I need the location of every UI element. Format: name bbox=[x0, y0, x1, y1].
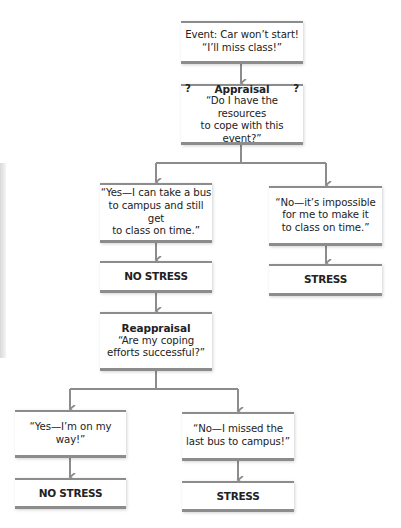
no2-line-2: last bus to campus!” bbox=[186, 436, 290, 449]
yes-on-my-way-box: “Yes—I’m on my way!” bbox=[15, 410, 126, 458]
no1-line-3: to class on time.” bbox=[282, 222, 370, 235]
yes2-line-1: “Yes—I’m on my way!” bbox=[15, 421, 126, 446]
yes-can-cope-box: “Yes—I can take a bus to campus and stil… bbox=[100, 183, 212, 243]
event-box: Event: Car won’t start! “I’ll miss class… bbox=[181, 21, 303, 64]
appraisal-line-1: “Do I have the resources bbox=[181, 95, 303, 120]
yes1-line-2: to campus and still get bbox=[100, 200, 212, 225]
event-line-1: Event: Car won’t start! bbox=[185, 29, 299, 42]
appraisal-title: Appraisal bbox=[214, 83, 269, 96]
yes1-line-1: “Yes—I can take a bus bbox=[101, 187, 212, 200]
no-stress-outcome-2: NO STRESS bbox=[15, 478, 126, 509]
no2-line-1: “No—I missed the bbox=[193, 423, 283, 436]
no-stress-outcome-1: NO STRESS bbox=[100, 261, 212, 293]
appraisal-box: ? Appraisal ? “Do I have the resources t… bbox=[181, 84, 303, 145]
stress-outcome-1: STRESS bbox=[269, 264, 382, 296]
reappraisal-box: Reappraisal “Are my coping efforts succe… bbox=[100, 312, 212, 371]
no-cannot-cope-box: “No—it’s impossible for me to make it to… bbox=[269, 186, 382, 246]
reappraisal-line-2: efforts successful?” bbox=[107, 347, 205, 360]
reappraisal-line-1: “Are my coping bbox=[118, 335, 194, 348]
appraisal-line-2: to cope with this event?” bbox=[181, 120, 303, 145]
question-mark-left: ? bbox=[185, 83, 191, 96]
no1-line-2: for me to make it bbox=[282, 209, 368, 222]
yes1-line-3: to class on time.” bbox=[112, 225, 200, 238]
no1-line-1: “No—it’s impossible bbox=[275, 197, 376, 210]
stress-outcome-2: STRESS bbox=[182, 481, 294, 512]
event-line-2: “I’ll miss class!” bbox=[202, 42, 282, 55]
question-mark-right: ? bbox=[293, 83, 299, 96]
no-missed-bus-box: “No—I missed the last bus to campus!” bbox=[182, 412, 294, 461]
reappraisal-title: Reappraisal bbox=[121, 322, 190, 335]
